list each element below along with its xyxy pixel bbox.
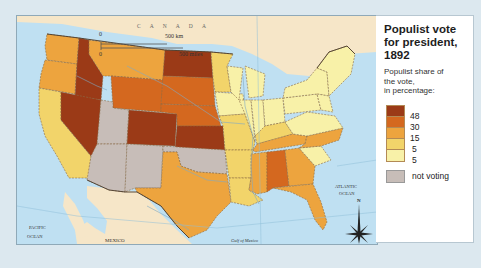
legend-subtitle: Populist share of the vote, in percentag… — [384, 67, 467, 96]
label-pacific-2: OCEAN — [27, 234, 43, 239]
scale-zero-km: 0 — [99, 31, 102, 37]
swatch-not-voting — [386, 170, 405, 183]
scale-label-5a: 5 — [412, 144, 417, 154]
state-colorado — [127, 110, 177, 146]
scale-label-48: 48 — [410, 111, 419, 121]
label-canada: C A N A D A — [137, 23, 210, 29]
legend-subtitle-line1: Populist share of — [384, 67, 467, 77]
state-arkansas — [225, 150, 253, 178]
swatch-5b — [386, 149, 405, 162]
state-oregon — [39, 60, 77, 94]
scale-mi-label: 500 miles — [179, 51, 203, 57]
legend-title-line1: Populist vote — [384, 23, 467, 36]
legend-not-voting: not voting — [384, 170, 467, 183]
state-kansas — [175, 126, 225, 150]
state-new-mexico — [125, 144, 163, 192]
map-frame: 0 500 km 0 500 miles C A N A D A MEXICO … — [16, 15, 378, 245]
label-atlantic-2: OCEAN — [339, 191, 355, 196]
state-south-dakota — [161, 76, 215, 106]
label-pacific-1: PACIFIC — [29, 225, 46, 230]
us-map: 0 500 km 0 500 miles C A N A D A MEXICO … — [17, 16, 377, 244]
legend-title-line2: for president, 1892 — [384, 36, 467, 62]
scale-label-15: 15 — [410, 133, 419, 143]
legend-subtitle-line2: the vote, — [384, 77, 467, 87]
scale-label-5b: 5 — [412, 155, 417, 165]
legend-scale: 48 30 15 5 5 — [384, 105, 467, 161]
scale-label-30: 30 — [410, 122, 419, 132]
compass-n-label: N — [357, 198, 361, 203]
scale-km-label: 500 km — [165, 33, 184, 39]
not-voting-label: not voting — [412, 171, 449, 181]
state-washington — [45, 34, 79, 64]
legend-subtitle-line3: in percentage: — [384, 86, 467, 96]
label-mexico: MEXICO — [105, 238, 125, 243]
state-wyoming — [111, 76, 163, 112]
legend-title: Populist vote for president, 1892 — [384, 23, 467, 62]
label-atlantic-1: ATLANTIC — [335, 184, 357, 189]
state-ohio — [263, 98, 285, 126]
scale-zero-mi: 0 — [99, 51, 102, 57]
label-gulf-of-mexico: Gulf of Mexico — [231, 238, 259, 243]
state-iowa — [215, 92, 245, 116]
legend-panel: Populist vote for president, 1892 Populi… — [376, 15, 474, 243]
